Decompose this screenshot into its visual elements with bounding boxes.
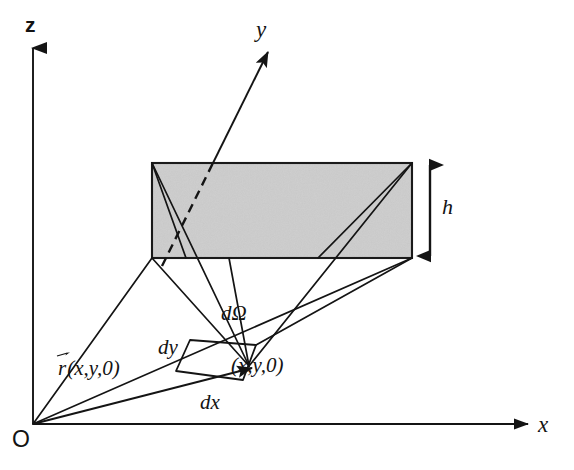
slab-thickness-label: h <box>442 196 453 218</box>
x-axis-label: x <box>538 413 548 436</box>
y-axis-label: y <box>256 18 266 41</box>
diagram-svg <box>0 0 574 470</box>
z-axis-label: z <box>25 14 36 35</box>
y-axis <box>213 52 268 163</box>
origin-label: O <box>12 428 30 451</box>
solid-angle-label: dΩ <box>221 303 247 324</box>
element-dx-label: dx <box>200 392 220 413</box>
element-point-label: (x,y,0) <box>231 355 283 376</box>
vector-arrow-accent-icon <box>57 351 70 358</box>
vector-arguments: (x,y,0) <box>67 358 119 379</box>
figure-canvas: z y x O h dΩ dy dx (x,y,0) r(x,y,0) <box>0 0 574 470</box>
element-dy-label: dy <box>158 337 178 358</box>
ray-element-corner-to-slab-bottom-right <box>256 258 412 345</box>
ray-origin-to-slab-bottom-right <box>33 258 412 424</box>
vector-symbol-r: r <box>58 358 67 379</box>
position-vector-label: r(x,y,0) <box>58 358 120 379</box>
